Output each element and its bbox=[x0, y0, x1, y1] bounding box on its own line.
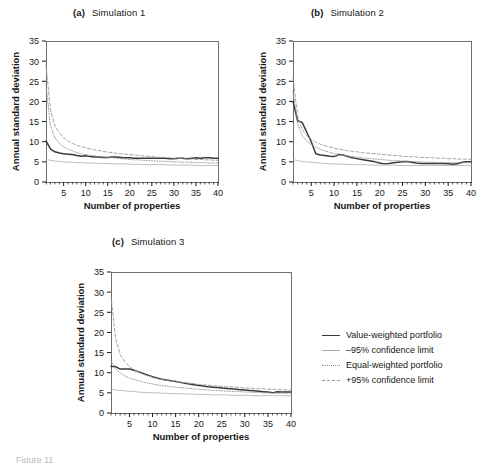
chart-panel-simulation-1: (a)Simulation 1 051015202530355101520253… bbox=[0, 0, 246, 230]
plot-b-canvas: 05101520253035510152025303540Number of p… bbox=[245, 0, 491, 230]
svg-text:15: 15 bbox=[171, 419, 181, 429]
svg-text:20: 20 bbox=[125, 188, 135, 198]
svg-text:15: 15 bbox=[276, 117, 286, 127]
chart-panel-simulation-2: (b)Simulation 2 051015202530355101520253… bbox=[245, 0, 491, 230]
legend-line-solid-dark-icon bbox=[322, 330, 340, 340]
svg-text:40: 40 bbox=[286, 419, 296, 429]
legend-item: –95% confidence limit bbox=[322, 342, 482, 357]
svg-text:15: 15 bbox=[94, 348, 104, 358]
svg-text:30: 30 bbox=[169, 188, 179, 198]
svg-text:25: 25 bbox=[398, 188, 408, 198]
plot-a-canvas: 05101520253035510152025303540Number of p… bbox=[0, 0, 246, 230]
svg-text:Annual standard deviation: Annual standard deviation bbox=[257, 52, 268, 171]
legend-item: +95% confidence limit bbox=[322, 372, 482, 387]
svg-text:15: 15 bbox=[29, 117, 39, 127]
svg-text:30: 30 bbox=[276, 57, 286, 67]
svg-text:35: 35 bbox=[29, 36, 39, 46]
legend-label: Equal-weighted portfolio bbox=[346, 360, 443, 370]
svg-text:5: 5 bbox=[281, 157, 286, 167]
svg-text:40: 40 bbox=[213, 188, 223, 198]
legend-line-dotted-icon bbox=[322, 360, 340, 370]
svg-text:30: 30 bbox=[29, 57, 39, 67]
svg-text:25: 25 bbox=[276, 77, 286, 87]
svg-text:30: 30 bbox=[94, 288, 104, 298]
legend-label: +95% confidence limit bbox=[346, 375, 434, 385]
legend-item: Value-weighted portfolio bbox=[322, 327, 482, 342]
svg-text:25: 25 bbox=[94, 308, 104, 318]
svg-text:10: 10 bbox=[276, 137, 286, 147]
svg-text:35: 35 bbox=[263, 419, 273, 429]
figure-root: (a)Simulation 1 051015202530355101520253… bbox=[0, 0, 491, 463]
svg-text:20: 20 bbox=[94, 328, 104, 338]
svg-text:10: 10 bbox=[329, 188, 339, 198]
svg-text:5: 5 bbox=[309, 188, 314, 198]
chart-legend: Value-weighted portfolio –95% confidence… bbox=[322, 327, 482, 387]
svg-text:5: 5 bbox=[61, 188, 66, 198]
svg-text:Annual standard deviation: Annual standard deviation bbox=[10, 52, 21, 171]
svg-text:15: 15 bbox=[352, 188, 362, 198]
svg-text:Number of properties: Number of properties bbox=[153, 431, 250, 442]
svg-text:10: 10 bbox=[148, 419, 158, 429]
svg-text:10: 10 bbox=[81, 188, 91, 198]
svg-text:20: 20 bbox=[375, 188, 385, 198]
svg-text:20: 20 bbox=[29, 97, 39, 107]
svg-text:0: 0 bbox=[99, 408, 104, 418]
plot-c-canvas: 05101520253035510152025303540Number of p… bbox=[65, 230, 311, 463]
svg-text:0: 0 bbox=[281, 177, 286, 187]
svg-text:5: 5 bbox=[34, 157, 39, 167]
svg-text:20: 20 bbox=[194, 419, 204, 429]
legend-line-dashed-icon bbox=[322, 375, 340, 385]
svg-text:40: 40 bbox=[466, 188, 476, 198]
svg-text:5: 5 bbox=[127, 419, 132, 429]
svg-text:25: 25 bbox=[29, 77, 39, 87]
svg-text:30: 30 bbox=[240, 419, 250, 429]
legend-line-solid-light-icon bbox=[322, 345, 340, 355]
svg-text:35: 35 bbox=[443, 188, 453, 198]
svg-text:Number of properties: Number of properties bbox=[334, 200, 431, 211]
svg-text:Number of properties: Number of properties bbox=[84, 200, 181, 211]
svg-text:10: 10 bbox=[94, 368, 104, 378]
svg-text:Annual standard deviation: Annual standard deviation bbox=[75, 283, 86, 402]
svg-text:25: 25 bbox=[147, 188, 157, 198]
legend-item: Equal-weighted portfolio bbox=[322, 357, 482, 372]
svg-text:20: 20 bbox=[276, 97, 286, 107]
legend-label: Value-weighted portfolio bbox=[346, 330, 442, 340]
svg-text:15: 15 bbox=[103, 188, 113, 198]
svg-text:35: 35 bbox=[276, 36, 286, 46]
svg-text:0: 0 bbox=[34, 177, 39, 187]
figure-caption-fragment: Figure 11 bbox=[16, 455, 276, 463]
svg-text:10: 10 bbox=[29, 137, 39, 147]
svg-text:30: 30 bbox=[420, 188, 430, 198]
chart-panel-simulation-3: (c)Simulation 3 051015202530355101520253… bbox=[65, 230, 311, 463]
svg-text:35: 35 bbox=[191, 188, 201, 198]
svg-text:35: 35 bbox=[94, 267, 104, 277]
svg-text:5: 5 bbox=[99, 388, 104, 398]
svg-text:25: 25 bbox=[217, 419, 227, 429]
legend-label: –95% confidence limit bbox=[346, 345, 434, 355]
